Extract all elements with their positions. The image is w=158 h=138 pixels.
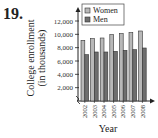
bar-women-2006 — [119, 34, 123, 101]
legend-swatch-men — [85, 17, 90, 22]
x-axis-arrow-icon — [150, 99, 155, 104]
x-tick-label: 2004 — [100, 104, 107, 118]
bar-men-2007 — [133, 50, 137, 101]
bar-men-2008 — [142, 48, 146, 101]
y-tick-label: 8,000 — [57, 44, 73, 52]
y-tick-label: 10,000 — [54, 31, 74, 39]
y-axis-arrow-icon — [76, 7, 81, 12]
legend-label-men: Men — [93, 15, 108, 24]
x-tick-label: 2003 — [91, 105, 98, 118]
x-tick-label: 2006 — [119, 104, 126, 118]
bar-women-2008 — [139, 31, 143, 101]
bar-men-2003 — [94, 52, 98, 101]
x-tick-label: 2008 — [139, 105, 146, 118]
bar-men-2006 — [123, 50, 127, 101]
bar-chart: 2,0004,0006,0008,00010,00012,00020022003… — [0, 0, 158, 138]
bar-men-2002 — [85, 55, 89, 101]
legend-label-women: Women — [93, 6, 118, 15]
bar-women-2005 — [110, 35, 114, 101]
legend-swatch-women — [85, 8, 90, 13]
y-tick-label: 4,000 — [57, 71, 73, 79]
bar-men-2005 — [114, 51, 118, 101]
x-tick-label: 2002 — [81, 105, 88, 118]
x-tick-label: 2005 — [110, 105, 117, 118]
y-tick-label: 2,000 — [57, 84, 73, 92]
bar-women-2003 — [91, 39, 95, 101]
bar-women-2007 — [129, 33, 133, 101]
bar-women-2004 — [100, 38, 104, 101]
y-tick-label: 12,000 — [54, 18, 74, 26]
bar-women-2002 — [81, 40, 85, 101]
x-tick-label: 2007 — [129, 104, 136, 118]
bar-men-2004 — [104, 52, 108, 101]
y-tick-label: 6,000 — [57, 58, 73, 66]
x-axis-label: Year — [99, 123, 117, 134]
